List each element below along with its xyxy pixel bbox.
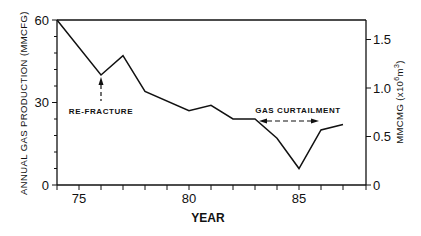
x-tick-80: 80 — [182, 191, 196, 206]
chart: 60 30 0 0 0.5 1.0 1.5 75 80 85 RE-FRAC — [0, 0, 421, 236]
axes — [57, 20, 366, 185]
x-tick-85: 85 — [292, 191, 306, 206]
y-left-ticks — [52, 20, 57, 185]
refracture-label: RE-FRACTURE — [69, 107, 133, 116]
y-right-ticks — [366, 40, 371, 186]
y-tick-60: 60 — [35, 13, 49, 28]
right-tick-1-5: 1.5 — [373, 32, 391, 47]
y-axis-right-label: MMCMG (x106m3) — [393, 60, 405, 144]
x-ticks — [57, 185, 366, 190]
refracture-arrow — [99, 77, 104, 101]
curtailment-arrow — [259, 119, 319, 124]
x-tick-75: 75 — [72, 191, 86, 206]
right-tick-0: 0 — [373, 178, 380, 193]
x-axis-label: YEAR — [191, 211, 225, 225]
curtailment-label: GAS CURTAILMENT — [255, 106, 341, 115]
y-tick-0: 0 — [42, 178, 49, 193]
y-tick-30: 30 — [35, 95, 49, 110]
production-line — [57, 20, 343, 169]
y-axis-left-label: ANNUAL GAS PRODUCTION (MMCFG) — [18, 11, 29, 195]
right-tick-0-5: 0.5 — [373, 129, 391, 144]
right-tick-1-0: 1.0 — [373, 81, 391, 96]
